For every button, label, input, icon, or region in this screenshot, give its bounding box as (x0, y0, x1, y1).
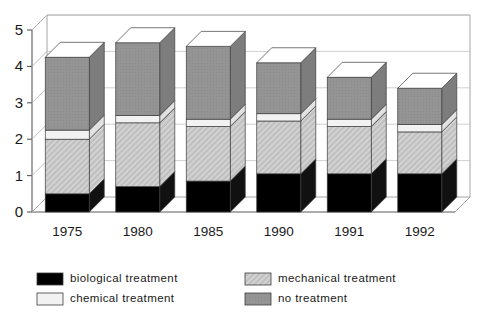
y-tick-label: 1 (15, 167, 23, 184)
bar-segment-front (45, 57, 89, 130)
chart-legend: biological treatmentchemical treatmentme… (37, 272, 396, 305)
legend-swatch (245, 293, 271, 305)
y-tick-label: 5 (15, 21, 23, 38)
legend-entry[interactable]: biological treatment (37, 272, 178, 285)
y-tick-depth (32, 124, 47, 139)
legend-swatch (245, 273, 271, 285)
bar-column (327, 62, 386, 212)
bar-column (45, 42, 104, 212)
legend-swatch (37, 273, 63, 285)
bar-segment-front (327, 119, 371, 126)
bar-segment-front (398, 125, 442, 132)
y-tick-depth (32, 161, 47, 176)
bar-segment-front (257, 174, 301, 212)
bars-group (45, 28, 457, 212)
y-tick-label: 0 (15, 203, 23, 220)
bar-segment-front (327, 126, 371, 173)
x-tick-label: 1975 (52, 224, 82, 239)
bar-segment-front (45, 194, 89, 212)
stacked-bar-chart: 012345 197519801985199019911992 biologic… (0, 0, 485, 320)
legend-entry[interactable]: no treatment (245, 292, 348, 305)
x-tick-label: 1980 (123, 224, 153, 239)
bar-segment-front (45, 139, 89, 194)
x-tick-label: 1985 (193, 224, 223, 239)
y-tick-depth (32, 88, 47, 103)
bar-column (116, 28, 175, 212)
legend-label: mechanical treatment (278, 272, 396, 284)
bar-segment-front (116, 123, 160, 187)
y-tick-label: 4 (15, 57, 23, 74)
y-tick-label: 2 (15, 130, 23, 147)
bar-segment-front (186, 46, 230, 119)
bar-segment-front (116, 43, 160, 116)
bar-segment-front (116, 116, 160, 123)
x-axis: 197519801985199019911992 (52, 224, 435, 239)
bar-segment-front (45, 130, 89, 139)
legend-label: biological treatment (70, 272, 178, 284)
legend-swatch (37, 293, 63, 305)
bar-segment-front (257, 121, 301, 174)
legend-entry[interactable]: mechanical treatment (245, 272, 396, 285)
bar-segment-front (257, 63, 301, 114)
bar-segment-front (327, 174, 371, 212)
legend-label: chemical treatment (70, 292, 175, 304)
bar-segment-front (257, 114, 301, 121)
y-tick-depth (32, 15, 47, 30)
bar-segment-front (398, 174, 442, 212)
x-tick-label: 1991 (334, 224, 364, 239)
bar-segment-front (186, 119, 230, 126)
x-tick-label: 1990 (264, 224, 294, 239)
bar-segment-front (186, 181, 230, 212)
x-tick-label: 1992 (405, 224, 435, 239)
bar-segment-front (327, 77, 371, 119)
y-tick-depth (32, 197, 47, 212)
bar-column (398, 73, 457, 212)
bar-column (186, 31, 245, 212)
bar-segment-front (398, 132, 442, 174)
y-tick-depth (32, 51, 47, 66)
y-tick-label: 3 (15, 94, 23, 111)
bar-segment-front (398, 88, 442, 124)
bar-column (257, 48, 316, 212)
bar-segment-front (116, 187, 160, 212)
chart-canvas: 012345 197519801985199019911992 biologic… (0, 0, 485, 320)
bar-segment-front (186, 126, 230, 181)
depth-edge-bottom-right (455, 197, 470, 212)
legend-label: no treatment (278, 292, 348, 304)
legend-entry[interactable]: chemical treatment (37, 292, 175, 305)
y-axis: 012345 (15, 15, 47, 220)
